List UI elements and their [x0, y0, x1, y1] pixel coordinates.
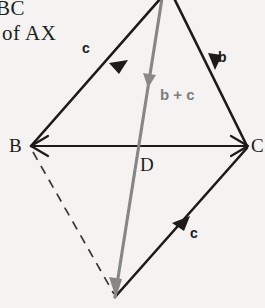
vertex-label-d: D	[140, 155, 154, 174]
vector-diagram-figure: BC of AX c b b + c c B C D	[0, 0, 265, 308]
edge-top-to-c-line	[170, 0, 247, 146]
caption-line-1: BC	[0, 0, 25, 19]
label-resultant-b-plus-c: b + c	[160, 87, 195, 102]
label-b-upper-right: b	[218, 50, 227, 64]
caption-line-2: of AX	[2, 23, 56, 44]
edge-b-to-bottom-dashed	[33, 152, 114, 294]
vertex-label-b: B	[9, 136, 22, 155]
edge-top-to-c	[170, 0, 247, 146]
vertex-label-c: C	[251, 136, 264, 155]
label-c-lower-right: c	[190, 226, 198, 240]
arrowhead-resultant-end	[109, 277, 122, 298]
label-c-upper-left: c	[82, 41, 90, 55]
arrowhead-c-upper-left	[109, 60, 128, 74]
diagram-canvas	[0, 0, 265, 308]
